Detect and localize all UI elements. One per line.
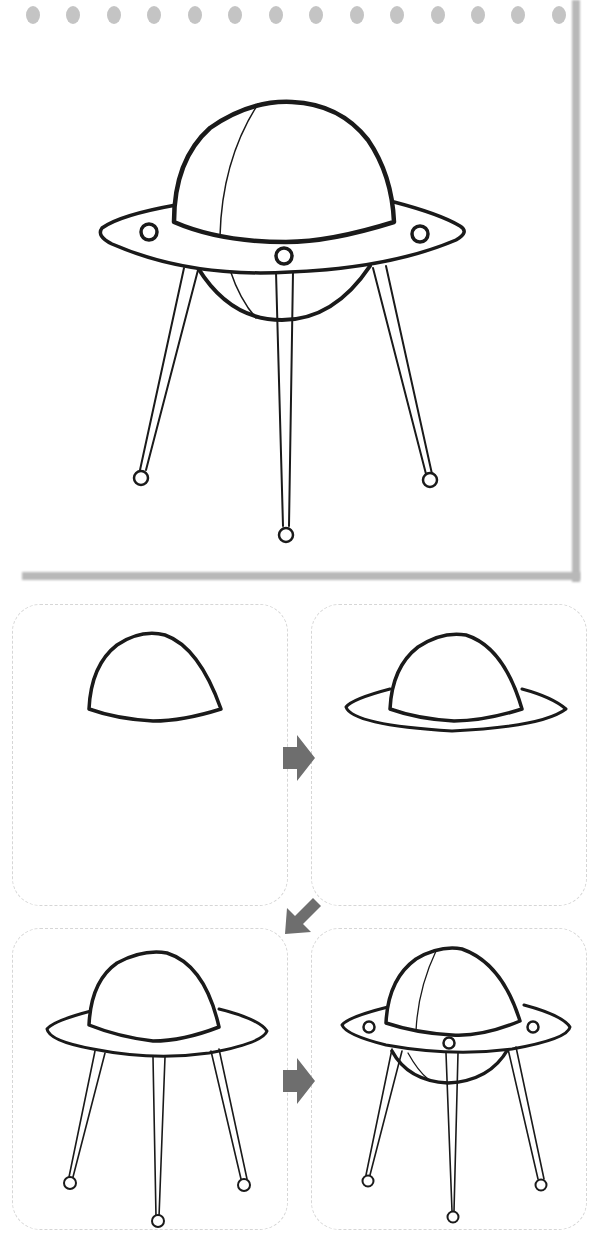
step-panel-3 — [12, 928, 288, 1230]
arrow-right-icon — [283, 1058, 317, 1104]
step-panel-2 — [311, 604, 587, 906]
arrow-down-left-icon — [283, 896, 323, 936]
step-1-dome-illustration — [13, 605, 287, 905]
step-panel-1 — [12, 604, 288, 906]
step-4-complete-ufo-illustration — [312, 929, 586, 1229]
step-3-saucer-legs-illustration — [13, 929, 287, 1229]
notepad-final-drawing — [0, 0, 578, 578]
arrow-right-icon — [283, 735, 317, 781]
ufo-final-illustration — [0, 0, 578, 578]
step-2-dome-saucer-illustration — [312, 605, 586, 905]
notepad-shadow — [572, 0, 580, 582]
step-panel-4 — [311, 928, 587, 1230]
notepad-shadow — [22, 572, 580, 580]
